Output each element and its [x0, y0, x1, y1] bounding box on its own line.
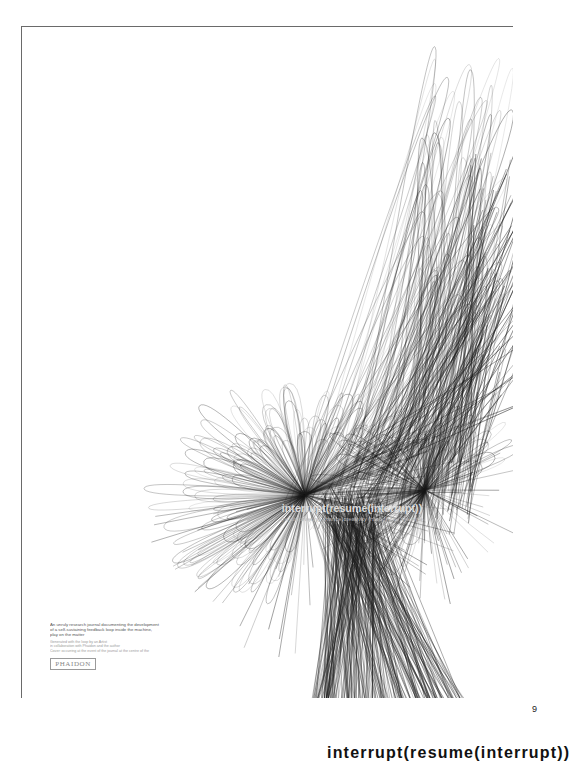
blurb-line: play on the matter — [50, 632, 180, 637]
bottom-caption-heading: interrupt(resume(interrupt)) — [327, 744, 570, 762]
cover-subtitle: (re)discovering chance creativity throug… — [252, 516, 452, 522]
cover-blurb: An unruly research journal documenting t… — [50, 622, 180, 637]
page-number: 9 — [532, 704, 537, 714]
publisher-logo: PHAIDON — [50, 658, 96, 670]
credit-line: Cover: occurring at the event of the jou… — [50, 649, 200, 653]
cover-title: interrupt(resume(interrupt)) — [262, 502, 442, 514]
cover-credits: Generated with the loop by an Artist in … — [50, 640, 200, 653]
artwork-canvas — [21, 26, 524, 712]
spirograph-artwork — [21, 26, 524, 712]
